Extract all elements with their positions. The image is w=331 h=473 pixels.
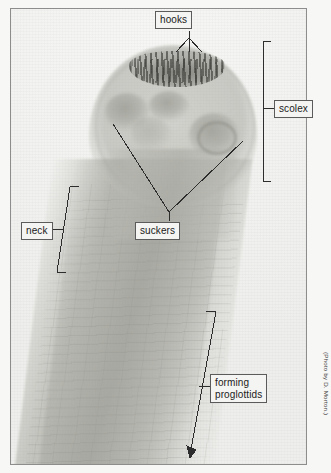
label-suckers[interactable]: suckers (135, 222, 180, 240)
label-scolex[interactable]: scolex (274, 100, 313, 118)
leader-neck (50, 186, 79, 273)
photo-credit: (Photo by D. Morton.) (323, 352, 330, 415)
label-neck[interactable]: neck (21, 222, 53, 240)
label-forming-proglottids[interactable]: forming proglottids (210, 374, 267, 403)
label-hooks[interactable]: hooks (155, 11, 192, 29)
leader-hooks (176, 31, 202, 52)
leader-suckers (113, 124, 243, 221)
figure-container: hooks scolex neck suckers forming proglo… (0, 0, 331, 473)
leader-scolex (263, 41, 274, 181)
